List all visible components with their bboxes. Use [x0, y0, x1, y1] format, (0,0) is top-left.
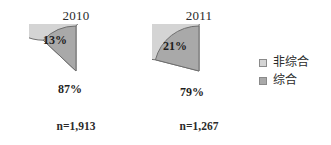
pie-title-2011: 2011: [123, 9, 275, 23]
legend-item-non-comprehensive: 非综合: [259, 54, 329, 71]
pie-sample-size-2011: n=1,267: [123, 120, 275, 133]
pie-slice-label-comprehensive-2010: 13%: [43, 33, 67, 48]
pie-chart-2011: 2011 21% 79% n=1,267: [123, 0, 275, 145]
legend-label-comprehensive: 综合: [273, 74, 297, 87]
pie-slice-label-non-comprehensive-2011: 79%: [180, 85, 204, 100]
legend-item-comprehensive: 综合: [259, 72, 329, 89]
pie-slice-label-comprehensive-2011: 21%: [163, 39, 187, 54]
legend-swatch-non-comprehensive-icon: [259, 59, 267, 67]
legend-swatch-comprehensive-icon: [259, 77, 267, 85]
pie-slice-label-non-comprehensive-2010: 87%: [58, 82, 82, 97]
chart-legend: 非综合 综合: [259, 54, 329, 90]
legend-label-non-comprehensive: 非综合: [273, 56, 309, 69]
pie-chart-figure: 2010 13% 87% n=1,913 2011 21% 79% n=1,26…: [0, 0, 331, 145]
